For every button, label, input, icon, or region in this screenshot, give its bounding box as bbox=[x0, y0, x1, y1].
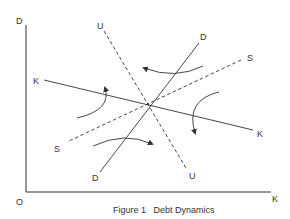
d-line bbox=[100, 43, 199, 172]
u-line-label-end: U bbox=[189, 171, 196, 181]
flow-arrow-top-left bbox=[144, 66, 203, 74]
s-line-label-end: S bbox=[54, 144, 60, 154]
y-axis-label: D bbox=[16, 16, 23, 26]
origin-label: O bbox=[16, 197, 23, 207]
s-line-label-start: S bbox=[247, 53, 253, 63]
flow-arrow-left-up bbox=[77, 88, 106, 118]
k-line-label-start: K bbox=[33, 76, 39, 86]
figure-caption: Figure 1 Debt Dynamics bbox=[113, 205, 215, 215]
d-line-label-start: D bbox=[200, 32, 207, 42]
debt-dynamics-diagram: D O K K K D D U U S S Figure 1 Debt Dyna… bbox=[0, 0, 290, 219]
x-axis-label: K bbox=[272, 194, 278, 204]
equilibrium-point bbox=[147, 103, 149, 105]
u-line-label-start: U bbox=[97, 21, 104, 31]
flow-arrow-right-down bbox=[193, 92, 219, 133]
d-line-label-end: D bbox=[92, 173, 99, 183]
u-line bbox=[104, 31, 186, 168]
k-line-label-end: K bbox=[257, 129, 263, 139]
